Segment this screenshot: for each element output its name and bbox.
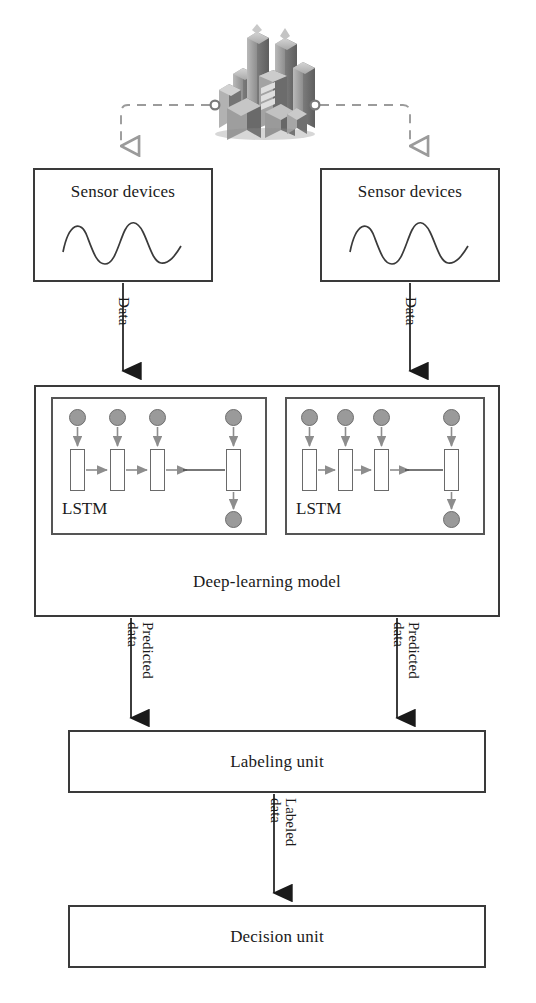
lstm-input-node [149,409,166,426]
edge-label-line: Labeled [283,798,298,846]
lstm-input-node [69,409,86,426]
edge-label-line: Predicted [140,622,155,679]
lstm-block-right[interactable]: LSTM [285,397,485,535]
lstm-cell [110,449,125,491]
lstm-input-node [109,409,126,426]
edge-label-predicted-data-right: Predicted data [390,622,421,679]
lstm-cell [302,449,317,491]
sensor-devices-box-right[interactable]: Sensor devices [320,168,500,282]
edge-label-line: data [124,622,139,679]
edge-city-to-sensor-right [311,101,410,146]
lstm-cell [70,449,85,491]
sensor-devices-label-right: Sensor devices [322,182,498,202]
sensor-devices-label-left: Sensor devices [35,182,211,202]
edge-label-labeled-data: Labeled data [267,798,298,846]
lstm-cell [338,449,353,491]
edge-label-predicted-data-left: Predicted data [124,622,155,679]
decision-unit-label: Decision unit [70,927,484,947]
lstm-block-left[interactable]: LSTM [51,397,267,535]
city-buildings-icon [203,22,323,140]
edge-label-data-left: Data [116,297,131,325]
city-icon-svg [203,22,323,140]
labeling-unit-label: Labeling unit [70,752,484,772]
edge-label-line: Predicted [406,622,421,679]
lstm-input-node [301,409,318,426]
edge-label-line: data [390,622,405,679]
edge-label-data-right: Data [403,297,418,325]
lstm-cell [150,449,165,491]
lstm-input-node [337,409,354,426]
lstm-cell [374,449,389,491]
lstm-cell [444,449,459,491]
deep-learning-model-label: Deep-learning model [36,572,498,592]
diagram-canvas: Sensor devices Sensor devices Deep-learn… [0,0,536,1003]
lstm-input-node [225,409,242,426]
lstm-cell [226,449,241,491]
sine-wave-icon-left [35,214,211,272]
lstm-input-node [443,409,460,426]
deep-learning-model-box[interactable]: Deep-learning model LSTM [34,385,500,617]
sensor-devices-box-left[interactable]: Sensor devices [33,168,213,282]
edge-label-line: data [267,798,282,846]
lstm-output-node [443,511,460,528]
lstm-label-right: LSTM [296,499,341,519]
lstm-label-left: LSTM [62,499,107,519]
labeling-unit-box[interactable]: Labeling unit [68,730,486,793]
sine-wave-icon-right [322,214,498,272]
lstm-input-node [373,409,390,426]
decision-unit-box[interactable]: Decision unit [68,905,486,968]
lstm-output-node [225,511,242,528]
